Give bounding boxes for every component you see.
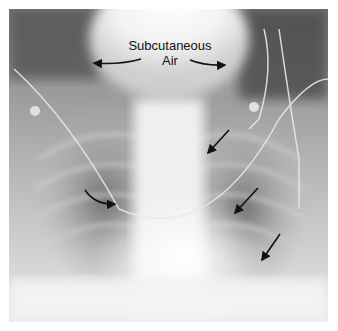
annotation-arrows bbox=[0, 0, 338, 331]
subcutaneous-air-arrow-right-icon bbox=[190, 60, 225, 65]
hilum-curved-arrow-icon bbox=[85, 190, 115, 204]
subcutaneous-air-arrow-left-icon bbox=[94, 59, 141, 64]
left-lung-arrow-upper-icon bbox=[208, 130, 229, 153]
left-lung-arrow-lower-icon bbox=[262, 234, 280, 260]
left-lung-arrow-middle-icon bbox=[235, 188, 258, 213]
